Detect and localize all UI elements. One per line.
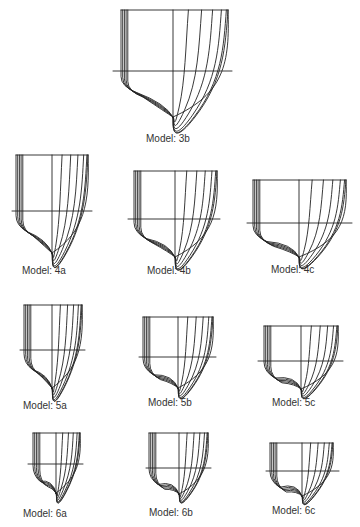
body-plan-5a bbox=[20, 305, 85, 401]
body-plan-6c bbox=[266, 443, 339, 505]
body-plan-3b bbox=[113, 10, 232, 133]
body-plan-5b bbox=[139, 317, 216, 399]
body-plan-5c bbox=[258, 326, 343, 399]
body-plan-6b bbox=[146, 433, 211, 503]
body-plan-4b bbox=[128, 171, 220, 270]
body-plan-4c bbox=[247, 180, 352, 269]
body-plan-4a bbox=[12, 155, 92, 268]
body-plan-svg bbox=[0, 0, 360, 527]
body-plan-6a bbox=[28, 433, 83, 503]
